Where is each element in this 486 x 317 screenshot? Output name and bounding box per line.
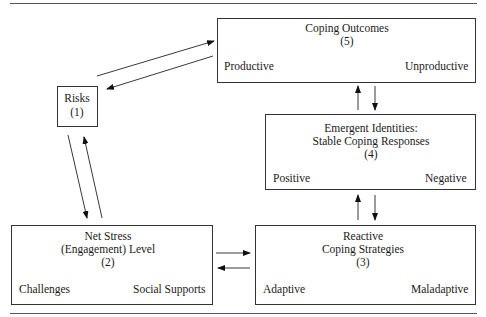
emergent-right-branch: Negative (425, 172, 467, 185)
netstress-title-line2: (Engagement) Level (61, 243, 155, 256)
outcomes-number: (5) (340, 35, 353, 48)
arrow-risks-to-netstress (68, 135, 87, 218)
top-rule (10, 3, 477, 4)
outcomes-left-branch: Productive (224, 60, 274, 73)
emergent-title-line2: Stable Coping Responses (313, 135, 430, 148)
emergent-left-branch: Positive (273, 172, 310, 185)
reactive-number: (3) (356, 256, 369, 269)
arrow-netstress-to-risks (84, 137, 102, 218)
reactive-title-line2: Coping Strategies (322, 243, 404, 256)
netstress-right-branch: Social Supports (133, 283, 206, 296)
netstress-number: (2) (101, 256, 114, 269)
emergent-title-line1: Emergent Identities: (324, 122, 417, 135)
arrow-outcomes-to-risks (107, 56, 213, 89)
outcomes-title: Coping Outcomes (305, 22, 388, 35)
reactive-right-branch: Maladaptive (411, 283, 468, 296)
emergent-number: (4) (364, 148, 377, 161)
risks-title: Risks (64, 92, 90, 105)
outcomes-right-branch: Unproductive (405, 60, 468, 73)
reactive-title-line1: Reactive (343, 230, 383, 243)
reactive-left-branch: Adaptive (263, 283, 305, 296)
netstress-left-branch: Challenges (19, 283, 70, 296)
netstress-title-line1: Net Stress (85, 230, 132, 243)
risks-number: (1) (70, 106, 83, 119)
bottom-rule (10, 313, 477, 314)
arrow-risks-to-outcomes (97, 41, 214, 76)
